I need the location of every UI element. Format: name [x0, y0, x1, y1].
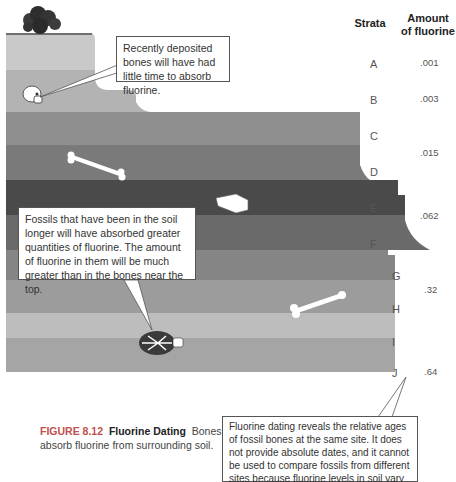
strata-column-header: Strata — [350, 17, 390, 30]
figure-caption: FIGURE 8.12 Fluorine Dating Bones absorb… — [40, 424, 250, 452]
stratum-label: E — [370, 202, 377, 214]
fluorine-value: .015 — [420, 147, 439, 158]
stratum-label: C — [370, 130, 378, 142]
stratum-label: J — [392, 367, 398, 379]
stratum-label: D — [370, 166, 378, 178]
callout-pointer — [378, 377, 406, 417]
stratum-label: A — [370, 58, 377, 70]
stratum-h — [0, 280, 456, 313]
stratum-d — [0, 145, 456, 180]
stratum-label: F — [370, 238, 377, 250]
stratum-label: G — [392, 270, 401, 282]
fluorine-value: .001 — [420, 57, 439, 68]
fluorine-value: .003 — [420, 93, 439, 104]
fluorine-value: .32 — [424, 284, 437, 295]
fluorine-column-header: Amount of fluorine — [400, 12, 456, 38]
stratum-i — [0, 313, 456, 338]
stratum-j — [0, 338, 456, 372]
stratum-c — [0, 112, 456, 145]
fluorine-header-line1: Amount — [407, 12, 449, 24]
callout-fluorine-dating: Fluorine dating reveals the relative age… — [222, 416, 418, 482]
callout-recent-bones: Recently deposited bones will have had l… — [116, 36, 230, 82]
fluorine-value: .64 — [424, 366, 437, 377]
bush-icon — [23, 6, 61, 34]
figure-title: Fluorine Dating — [109, 425, 186, 437]
fluorine-header-line2: of fluorine — [401, 25, 455, 37]
stratum-label: H — [392, 303, 400, 315]
callout-older-fossils: Fossils that have been in the soil longe… — [18, 207, 196, 280]
fluorine-value: .062 — [420, 210, 439, 221]
stratum-label: I — [392, 336, 395, 348]
stratum-label: B — [370, 94, 377, 106]
figure-number: FIGURE 8.12 — [40, 425, 103, 437]
